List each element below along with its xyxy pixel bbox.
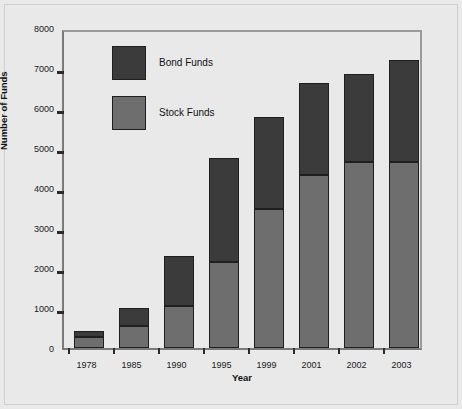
x-axis-tick: [158, 348, 160, 354]
y-axis-tick-label: 1000: [14, 304, 54, 314]
chart-figure: Number of Funds Year 0100020003000400050…: [0, 0, 462, 409]
y-axis-tick-label: 8000: [14, 24, 54, 34]
y-axis-tick: [57, 311, 64, 314]
legend-swatch-bond-funds: [112, 46, 146, 80]
y-axis-tick-label: 4000: [14, 184, 54, 194]
legend-label-bond-funds: Bond Funds: [159, 57, 213, 68]
bar-segment-bond-funds: [389, 60, 419, 162]
table-row: [74, 331, 104, 348]
x-axis-tick: [248, 348, 250, 354]
table-row: [119, 308, 149, 348]
y-axis-label: Number of Funds: [0, 71, 9, 150]
y-axis-tick: [57, 151, 64, 154]
bar-segment-bond-funds: [74, 331, 104, 337]
bar-segment-stock-funds: [254, 209, 284, 348]
x-axis-tick-label: 2001: [287, 360, 337, 370]
y-axis-tick: [57, 191, 64, 194]
y-axis-tick: [57, 71, 64, 74]
x-axis-tick-label: 1978: [62, 360, 112, 370]
bar-segment-stock-funds: [344, 162, 374, 348]
legend-label-stock-funds: Stock Funds: [159, 107, 215, 118]
x-axis-tick-label: 1990: [152, 360, 202, 370]
y-axis-tick-label: 0: [14, 344, 54, 354]
bar-segment-stock-funds: [164, 306, 194, 348]
table-row: [209, 158, 239, 348]
x-axis-tick-label: 1999: [242, 360, 292, 370]
x-axis-tick-label: 1985: [107, 360, 157, 370]
y-axis-tick-label: 2000: [14, 264, 54, 274]
y-axis-tick-label: 5000: [14, 144, 54, 154]
table-row: [344, 74, 374, 348]
bar-segment-bond-funds: [254, 117, 284, 209]
bar-segment-stock-funds: [299, 175, 329, 348]
bar-segment-bond-funds: [119, 308, 149, 327]
y-axis-tick: [57, 111, 64, 114]
bar-segment-stock-funds: [389, 162, 419, 348]
y-axis-tick-label: 3000: [14, 224, 54, 234]
x-axis-tick-label: 1995: [197, 360, 247, 370]
x-axis-label: Year: [62, 372, 422, 383]
y-axis-tick-label: 7000: [14, 64, 54, 74]
x-axis-tick: [68, 348, 70, 354]
x-axis-tick-label: 2002: [332, 360, 382, 370]
table-row: [389, 60, 419, 348]
table-row: [299, 83, 329, 348]
y-axis-tick-label: 6000: [14, 104, 54, 114]
table-row: [254, 117, 284, 348]
x-axis-tick: [338, 348, 340, 354]
legend-swatch-stock-funds: [112, 96, 146, 130]
bar-segment-bond-funds: [209, 158, 239, 262]
bar-segment-bond-funds: [299, 83, 329, 175]
x-axis-tick-label: 2003: [377, 360, 427, 370]
bar-segment-bond-funds: [164, 256, 194, 306]
x-axis-tick: [293, 348, 295, 354]
bar-segment-bond-funds: [344, 74, 374, 162]
y-axis-tick: [57, 271, 64, 274]
x-axis-tick: [383, 348, 385, 354]
table-row: [164, 256, 194, 348]
plot-area: Bond Funds Stock Funds: [62, 30, 422, 350]
x-axis-tick: [113, 348, 115, 354]
y-axis-tick: [57, 231, 64, 234]
bar-segment-stock-funds: [119, 326, 149, 348]
x-axis-tick: [203, 348, 205, 354]
bar-segment-stock-funds: [74, 337, 104, 348]
bar-segment-stock-funds: [209, 262, 239, 348]
